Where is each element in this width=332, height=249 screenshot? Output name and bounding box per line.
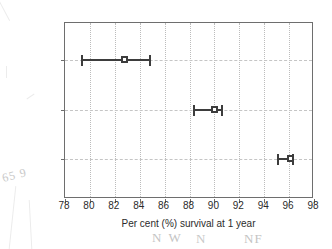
x-tick-label: 78 (58, 200, 69, 211)
y-tick (61, 159, 65, 160)
x-tick-label: 96 (283, 200, 294, 211)
pencil-annotation: N W (152, 230, 183, 246)
x-tick-label: 80 (83, 200, 94, 211)
confidence-interval-cap-low (193, 105, 195, 116)
pencil-annotation: N (196, 231, 205, 247)
x-tick-label: 98 (307, 200, 318, 211)
confidence-interval-cap-low (277, 154, 279, 165)
x-axis-title: Per cent (%) survival at 1 year (64, 218, 313, 229)
paper-crease (6, 66, 7, 78)
pencil-annotation: NF (244, 231, 263, 247)
x-tick-label: 88 (183, 200, 194, 211)
paper-crease (9, 186, 17, 249)
x-tick-label: 82 (108, 200, 119, 211)
category-rowline (65, 159, 312, 160)
y-tick (61, 60, 65, 61)
paper-crease (29, 200, 33, 249)
data-point-marker (287, 155, 294, 162)
figure: 65 9 N W N NF 7880828486889092949698 Neo… (0, 0, 332, 249)
data-point-marker (211, 106, 218, 113)
confidence-interval-cap-high (149, 55, 151, 66)
x-tick-label: 86 (158, 200, 169, 211)
paper-crease (26, 94, 34, 100)
x-tick-label: 90 (208, 200, 219, 211)
category-rowline (65, 110, 312, 111)
confidence-interval-cap-low (81, 55, 83, 66)
confidence-interval-cap-high (221, 105, 223, 116)
confidence-interval-line (82, 59, 149, 61)
data-point-marker (121, 56, 128, 63)
x-tick-label: 94 (258, 200, 269, 211)
x-tick-label: 84 (133, 200, 144, 211)
paper-crease (0, 1, 10, 21)
margin-scribble: 65 9 (1, 165, 29, 186)
plot-area (64, 22, 313, 198)
y-tick (61, 110, 65, 111)
x-tick-label: 92 (233, 200, 244, 211)
